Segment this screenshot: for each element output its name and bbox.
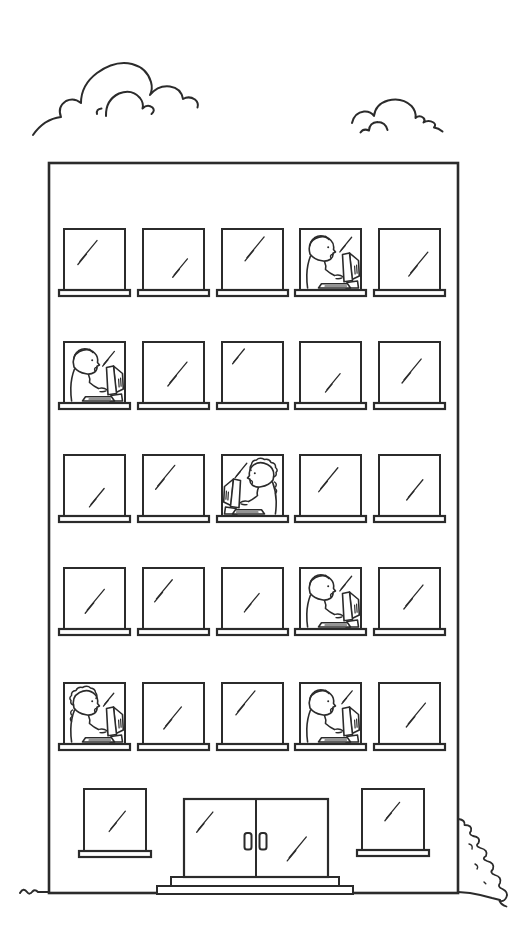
bush-inner-strokes — [469, 844, 486, 884]
window-sill — [295, 516, 366, 522]
window-glass — [222, 683, 283, 744]
window-floor5-col4 — [295, 683, 366, 750]
building — [49, 163, 458, 894]
window-floor1-col4 — [295, 229, 366, 296]
person-eye — [327, 585, 329, 587]
window-glass — [143, 342, 204, 403]
cloud-right-outline — [352, 100, 443, 132]
window-floor2-col5 — [374, 342, 445, 409]
floor-2 — [59, 342, 445, 409]
window-sill — [374, 744, 445, 750]
window-sill — [217, 516, 288, 522]
entrance-door — [184, 799, 328, 877]
window-glass — [300, 455, 361, 516]
step-upper — [171, 877, 339, 886]
window-glass — [143, 455, 204, 516]
window-floor4-col4 — [295, 568, 366, 635]
window-sill — [79, 851, 151, 857]
window-glass — [64, 455, 125, 516]
window-floor4-col5 — [374, 568, 445, 635]
window-glass — [300, 342, 361, 403]
floor-4 — [59, 568, 445, 635]
floor-1 — [59, 229, 445, 296]
cloud-left — [33, 63, 198, 135]
window-glass — [222, 229, 283, 290]
window-sill — [217, 629, 288, 635]
cloud-left-outline — [33, 63, 198, 135]
illustration-canvas — [0, 0, 510, 948]
window-glass — [222, 342, 283, 403]
person-head — [248, 463, 274, 487]
window-glass — [143, 568, 204, 629]
window-floor2-col3 — [217, 342, 288, 409]
window-glass — [362, 789, 424, 850]
window-floor5-col3 — [217, 683, 288, 750]
window-floor3-col5 — [374, 455, 445, 522]
window-sill — [374, 403, 445, 409]
window-glass — [379, 455, 440, 516]
ground-floor-left-window — [79, 789, 151, 857]
window-sill — [295, 629, 366, 635]
keyboard — [83, 397, 115, 401]
window-floor3-col2 — [138, 455, 209, 522]
person-eye — [327, 700, 329, 702]
window-floor4-col3 — [217, 568, 288, 635]
window-floor3-col4 — [295, 455, 366, 522]
keyboard — [319, 284, 351, 288]
window-floor5-col5 — [374, 683, 445, 750]
window-sill — [138, 516, 209, 522]
window-floor3-col3 — [217, 455, 288, 522]
person-eye — [91, 359, 93, 361]
window-sill — [295, 290, 366, 296]
window-glass — [379, 683, 440, 744]
window-glass — [222, 568, 283, 629]
entrance-steps — [157, 877, 353, 894]
window-sill — [217, 744, 288, 750]
sky — [33, 63, 443, 135]
door-handle-left — [245, 833, 252, 850]
person-eye — [91, 700, 93, 702]
cloud-right — [352, 100, 443, 133]
window-glass — [143, 229, 204, 290]
keyboard — [233, 510, 265, 514]
window-sill — [217, 403, 288, 409]
window-sill — [59, 403, 130, 409]
person-head — [73, 691, 99, 715]
window-floor2-col4 — [295, 342, 366, 409]
window-floor1-col3 — [217, 229, 288, 296]
person-head — [309, 576, 335, 600]
window-glass — [64, 568, 125, 629]
window-sill — [138, 290, 209, 296]
window-sill — [138, 629, 209, 635]
floor-3 — [59, 455, 445, 522]
window-floor1-col5 — [374, 229, 445, 296]
window-floor4-col2 — [138, 568, 209, 635]
keyboard — [319, 623, 351, 627]
window-glass — [84, 789, 146, 851]
door-handle-right — [260, 833, 267, 850]
window-sill — [295, 403, 366, 409]
keyboard — [83, 738, 115, 742]
window-sill — [59, 629, 130, 635]
window-sill — [138, 744, 209, 750]
window-floor2-col2 — [138, 342, 209, 409]
window-sill — [217, 290, 288, 296]
window-sill — [59, 744, 130, 750]
window-sill — [357, 850, 429, 856]
ground-floor-right-window — [357, 789, 429, 856]
window-sill — [138, 403, 209, 409]
window-sill — [59, 290, 130, 296]
person-eye — [327, 246, 329, 248]
floor-5 — [59, 683, 445, 750]
window-floor2-col1 — [59, 342, 130, 409]
window-sill — [59, 516, 130, 522]
illustration-stage — [0, 0, 510, 948]
window-sill — [374, 629, 445, 635]
cloud-left-inner-puff — [97, 92, 154, 116]
keyboard — [319, 738, 351, 742]
person-head — [73, 350, 99, 374]
cloud-right-inner-puff — [361, 122, 388, 133]
window-floor5-col1 — [59, 683, 130, 750]
step-lower — [157, 886, 353, 894]
window-floor1-col1 — [59, 229, 130, 296]
